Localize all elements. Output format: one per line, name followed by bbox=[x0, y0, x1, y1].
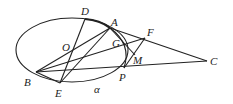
geometry-diagram: D A O G F M P C B E α bbox=[0, 0, 233, 104]
line-bf bbox=[36, 38, 145, 72]
label-d: D bbox=[81, 6, 89, 17]
label-o: O bbox=[62, 42, 70, 53]
thick-arc-da bbox=[85, 19, 110, 28]
line-be bbox=[36, 72, 60, 83]
line-ae bbox=[60, 28, 110, 83]
label-f: F bbox=[147, 27, 154, 38]
label-a: A bbox=[111, 17, 118, 28]
label-e: E bbox=[55, 88, 62, 99]
label-c: C bbox=[210, 56, 217, 67]
label-alpha: α bbox=[94, 84, 100, 95]
label-b: B bbox=[24, 77, 31, 88]
label-p: P bbox=[119, 72, 126, 83]
label-m: M bbox=[133, 55, 142, 66]
label-g: G bbox=[112, 38, 120, 49]
